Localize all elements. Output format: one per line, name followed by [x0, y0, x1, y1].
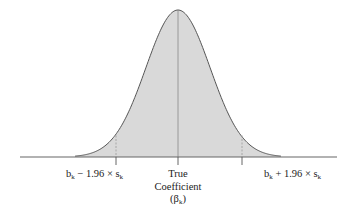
- true-coefficient-line1: True: [148, 168, 208, 181]
- true-coefficient-label: True Coefficient (βk): [148, 168, 208, 209]
- true-coefficient-line2: Coefficient: [148, 181, 208, 194]
- lower-bound-label: bk − 1.96 × sk: [66, 168, 123, 183]
- true-coefficient-line3: (βk): [148, 193, 208, 209]
- upper-bound-label: bk + 1.96 × sk: [264, 168, 321, 183]
